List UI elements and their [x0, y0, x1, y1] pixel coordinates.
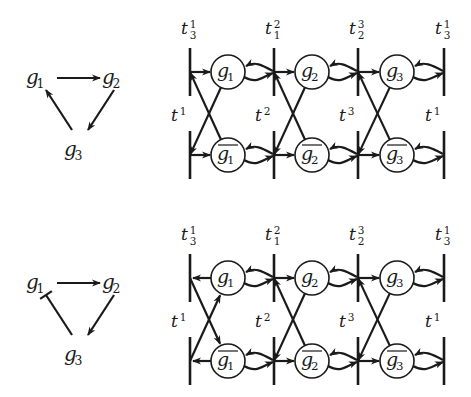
superscript: 2 — [264, 311, 271, 323]
arc-back — [415, 270, 443, 277]
svg-text:t: t — [255, 105, 262, 125]
subscript: 3 — [396, 70, 404, 84]
arc-out — [413, 362, 443, 369]
superscript: 1 — [434, 105, 441, 117]
arc-out — [328, 73, 357, 80]
gene-label-g1: g1 — [26, 65, 44, 91]
arc-back — [330, 64, 357, 71]
superscript: 3 — [348, 311, 355, 323]
gene-label-g3: g3 — [64, 342, 82, 368]
panel-inhibition-loop: g1g2g3t13t1t21t2t32t3t13t1g1g1g2g2g3g3 — [26, 224, 451, 385]
transition-label-top: t21 — [265, 18, 281, 42]
svg-text:t: t — [339, 105, 346, 125]
transition-label-top: t21 — [265, 224, 281, 248]
superscript: 1 — [180, 311, 187, 323]
subscript: 3 — [444, 29, 451, 41]
arc-back — [246, 353, 273, 360]
svg-text:t: t — [435, 18, 442, 38]
subscript: 1 — [227, 359, 235, 373]
arc-back — [330, 270, 357, 277]
svg-text:t: t — [349, 18, 356, 38]
transition-label-top: t32 — [349, 224, 365, 248]
arc-out — [328, 279, 357, 286]
transition-network: t13t1t21t2t32t3t13t1g1g1g2g2g3g3 — [171, 18, 451, 179]
arc-out — [413, 73, 443, 80]
place-not-g3: g3 — [380, 344, 414, 378]
transition-label-top: t13 — [435, 18, 451, 42]
arc-out — [244, 156, 273, 163]
subscript: 1 — [227, 70, 235, 84]
transition-label-top: t13 — [181, 224, 197, 248]
arc-out — [328, 156, 357, 163]
superscript: 1 — [444, 18, 451, 30]
subscript: 1 — [36, 281, 44, 296]
inhibition-edge — [46, 295, 72, 335]
transition-label-bottom: t1 — [171, 311, 187, 331]
arc-back — [246, 270, 273, 277]
place-g2: g2 — [295, 261, 329, 295]
transition-label-top: t13 — [181, 18, 197, 42]
activation-arrow — [46, 90, 72, 130]
arc-back — [330, 147, 357, 154]
arc-back — [415, 353, 443, 360]
transition-label-top: t13 — [435, 224, 451, 248]
svg-text:t: t — [425, 105, 432, 125]
subscript: 3 — [190, 235, 197, 247]
transition-label-bottom: t3 — [339, 311, 355, 331]
transition-label-bottom: t3 — [339, 105, 355, 125]
superscript: 3 — [348, 105, 355, 117]
svg-text:t: t — [171, 105, 178, 125]
superscript: 3 — [358, 18, 365, 30]
subscript: 1 — [36, 76, 44, 91]
superscript: 1 — [180, 105, 187, 117]
activation-arrow — [88, 90, 114, 130]
transition-label-bottom: t1 — [171, 105, 187, 125]
place-g3: g3 — [380, 55, 414, 89]
subscript: 2 — [112, 76, 120, 91]
superscript: 1 — [444, 224, 451, 236]
superscript: 2 — [274, 18, 281, 30]
subscript: 2 — [311, 70, 319, 84]
arc-out — [413, 279, 443, 286]
subscript: 3 — [444, 235, 451, 247]
place-g1: g1 — [211, 261, 245, 295]
panel-activation-loop: g1g2g3t13t1t21t2t32t3t13t1g1g1g2g2g3g3 — [26, 18, 451, 179]
arc-out — [328, 362, 357, 369]
subscript: 3 — [396, 276, 404, 290]
subscript: 2 — [358, 29, 365, 41]
diagram-canvas: g1g2g3t13t1t21t2t32t3t13t1g1g1g2g2g3g3 g… — [0, 0, 471, 397]
arc-back — [415, 147, 443, 154]
transition-network: t13t1t21t2t32t3t13t1g1g1g2g2g3g3 — [171, 224, 451, 385]
subscript: 3 — [190, 29, 197, 41]
arc-back — [246, 147, 273, 154]
place-not-g2: g2 — [295, 344, 329, 378]
transition-label-top: t32 — [349, 18, 365, 42]
gene-label-g2: g2 — [102, 270, 120, 296]
arc-out — [244, 73, 273, 80]
arc-out — [244, 362, 273, 369]
gene-label-g1: g1 — [26, 270, 44, 296]
svg-text:t: t — [425, 311, 432, 331]
place-g1: g1 — [211, 55, 245, 89]
subscript: 1 — [227, 276, 235, 290]
svg-text:t: t — [349, 224, 356, 244]
svg-text:t: t — [265, 18, 272, 38]
svg-text:t: t — [181, 18, 188, 38]
gene-label-g3: g3 — [64, 137, 82, 163]
svg-text:t: t — [181, 224, 188, 244]
arc-out — [413, 156, 443, 163]
arc-out — [244, 279, 273, 286]
superscript: 2 — [274, 224, 281, 236]
regulatory-graph: g1g2g3 — [26, 65, 120, 163]
transition-label-bottom: t1 — [425, 105, 441, 125]
subscript: 2 — [311, 359, 319, 373]
arc-back — [246, 64, 273, 71]
svg-text:t: t — [265, 224, 272, 244]
superscript: 3 — [358, 224, 365, 236]
arc-back — [330, 353, 357, 360]
subscript: 3 — [74, 353, 82, 368]
subscript: 3 — [74, 148, 82, 163]
subscript: 3 — [396, 153, 404, 167]
arc-back — [415, 64, 443, 71]
regulatory-graph: g1g2g3 — [26, 270, 120, 368]
